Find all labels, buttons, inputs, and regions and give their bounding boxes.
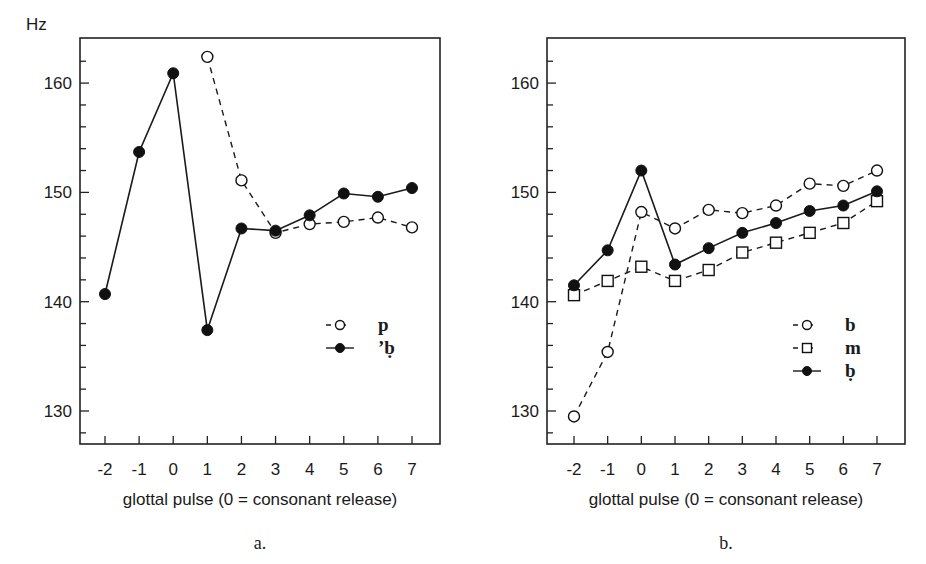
x-axis-label: glottal pulse (0 = consonant release) [589,490,864,509]
legend-label-’ḅ: ’ḅ [378,337,395,358]
open-circle-marker [803,321,812,330]
x-tick-label: 0 [637,460,646,479]
y-tick-label: 140 [511,293,539,312]
open-circle-marker [336,321,345,330]
open-square-marker [670,275,681,286]
figure-canvas: Hz 130140150160-2-101234567glottal pulse… [0,0,926,564]
y-tick-label: 150 [44,183,72,202]
y-tick-label: 130 [511,402,539,421]
x-tick-label: 4 [305,460,314,479]
filled-circle-marker [771,218,782,229]
x-axis-label: glottal pulse (0 = consonant release) [123,490,398,509]
open-square-marker [838,218,849,229]
open-circle-marker [838,180,849,191]
series-line-ḅ [574,171,877,286]
series-line-m [574,201,877,295]
filled-circle-marker [804,205,815,216]
series-line-’ḅ [105,73,412,330]
filled-circle-marker [636,165,647,176]
x-tick-label: 6 [839,460,848,479]
x-tick-label: 6 [373,460,382,479]
filled-circle-marker [202,325,213,336]
open-square-marker [803,344,812,353]
plot-frame [80,38,440,444]
filled-circle-marker [703,243,714,254]
filled-circle-marker [803,367,812,376]
open-circle-marker [771,200,782,211]
y-tick-label: 140 [44,293,72,312]
filled-circle-marker [670,259,681,270]
x-tick-label: 1 [203,460,212,479]
filled-circle-marker [838,200,849,211]
x-tick-label: 3 [271,460,280,479]
filled-circle-marker [602,245,613,256]
x-tick-label: -2 [97,460,112,479]
open-square-marker [703,265,714,276]
open-circle-marker [407,222,418,233]
filled-circle-marker [737,227,748,238]
legend-label-ḅ: ḅ [845,360,856,381]
filled-circle-marker [100,289,111,300]
open-circle-marker [602,346,613,357]
legend-label-p: p [378,314,389,335]
filled-circle-marker [304,210,315,221]
open-square-marker [804,227,815,238]
legend-label-b: b [845,314,856,335]
open-circle-marker [737,208,748,219]
panel-a: 130140150160-2-101234567glottal pulse (0… [44,38,440,553]
filled-circle-marker [270,225,281,236]
x-tick-label: 5 [805,460,814,479]
filled-circle-marker [407,183,418,194]
panel-label: b. [719,533,733,553]
y-unit-label: Hz [26,15,47,34]
x-tick-label: -1 [132,460,147,479]
open-square-marker [771,237,782,248]
filled-circle-marker [569,280,580,291]
panel-label: a. [254,533,267,553]
y-tick-label: 130 [44,402,72,421]
panel-b: 130140150160-2-101234567glottal pulse (0… [511,38,905,553]
open-square-marker [636,261,647,272]
open-circle-marker [236,175,247,186]
x-tick-label: 0 [168,460,177,479]
filled-circle-marker [336,344,345,353]
x-tick-label: 3 [738,460,747,479]
open-circle-marker [202,51,213,62]
x-tick-label: 2 [237,460,246,479]
x-tick-label: 7 [407,460,416,479]
x-tick-label: 4 [771,460,780,479]
filled-circle-marker [872,186,883,197]
filled-circle-marker [372,191,383,202]
x-tick-label: -2 [566,460,581,479]
y-tick-label: 160 [511,74,539,93]
x-tick-label: 2 [704,460,713,479]
open-circle-marker [703,204,714,215]
x-tick-label: 7 [872,460,881,479]
open-square-marker [602,275,613,286]
open-circle-marker [636,207,647,218]
filled-circle-marker [236,223,247,234]
filled-circle-marker [134,146,145,157]
y-tick-label: 160 [44,74,72,93]
x-tick-label: -1 [600,460,615,479]
y-tick-label: 150 [511,183,539,202]
filled-circle-marker [168,68,179,79]
open-circle-marker [338,216,349,227]
open-square-marker [737,247,748,258]
open-circle-marker [569,411,580,422]
open-circle-marker [872,165,883,176]
filled-circle-marker [338,188,349,199]
open-circle-marker [670,223,681,234]
x-tick-label: 5 [339,460,348,479]
x-tick-label: 1 [670,460,679,479]
series-line-p [207,57,412,233]
open-circle-marker [804,178,815,189]
legend-label-m: m [845,337,861,358]
open-circle-marker [372,212,383,223]
